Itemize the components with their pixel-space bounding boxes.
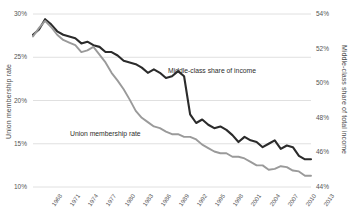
y-axis-right-title: Middle-class share of total income — [341, 30, 348, 170]
y-left-tick-label: 20% — [5, 97, 27, 104]
chart-container: Union membership rate Middle-class share… — [0, 0, 354, 224]
y-right-tick-label: 46% — [316, 148, 340, 155]
y-left-tick-label: 25% — [5, 53, 27, 60]
plot-area — [0, 0, 354, 224]
y-left-tick-label: 30% — [5, 10, 27, 17]
series-layer — [33, 19, 311, 176]
annotation-middle-class-share: Middle-class share of income — [168, 67, 256, 74]
y-right-tick-label: 44% — [316, 183, 340, 190]
annotation-union-membership: Union membership rate — [70, 130, 141, 137]
series-line-2 — [33, 21, 311, 176]
gridlines — [33, 14, 311, 187]
series-line-1 — [33, 19, 311, 159]
y-right-tick-label: 48% — [316, 114, 340, 121]
y-left-tick-label: 10% — [5, 183, 27, 190]
y-right-tick-label: 52% — [316, 45, 340, 52]
y-right-tick-label: 50% — [316, 79, 340, 86]
y-right-tick-label: 54% — [316, 10, 340, 17]
y-left-tick-label: 15% — [5, 140, 27, 147]
